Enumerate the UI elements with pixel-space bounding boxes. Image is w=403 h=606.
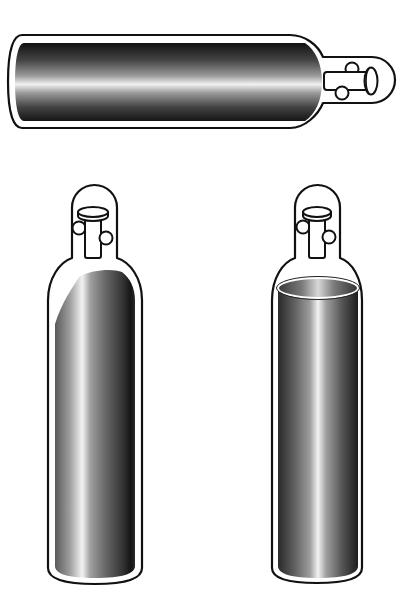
cylinders-figure xyxy=(0,0,403,606)
horizontal-cylinder xyxy=(8,35,395,128)
valve-knob-right xyxy=(323,231,336,244)
vertical-cylinder-left xyxy=(48,185,142,584)
valve-knob-left xyxy=(73,222,86,235)
valve-knob-left xyxy=(297,221,310,234)
cylinder-illustration xyxy=(0,0,403,606)
vertical-cylinder-right xyxy=(272,185,362,583)
cylinder-contents-shading xyxy=(15,43,322,121)
liquid-surface xyxy=(278,278,358,298)
valve-knob-right xyxy=(100,232,113,245)
valve-handwheel xyxy=(78,207,108,217)
liquid-body-shading xyxy=(278,288,358,578)
valve-handwheel xyxy=(303,207,331,217)
valve-knob-lower xyxy=(336,87,349,100)
cylinder-contents-shading xyxy=(55,270,135,578)
